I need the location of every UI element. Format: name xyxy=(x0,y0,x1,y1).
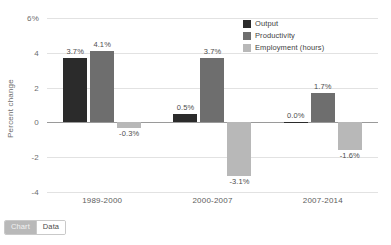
bar-rect xyxy=(284,122,308,123)
legend-item[interactable]: Productivity xyxy=(243,30,324,41)
bar-value-label: 0.0% xyxy=(287,111,305,120)
bar-value-label: 1.7% xyxy=(314,82,332,91)
legend-item[interactable]: Output xyxy=(243,18,324,29)
bar[interactable]: -0.3% xyxy=(117,18,141,192)
bar-rect xyxy=(200,58,224,122)
legend-swatch-icon xyxy=(243,20,251,28)
bar[interactable]: 4.1% xyxy=(90,18,114,192)
x-axis-category-label: 1989-2000 xyxy=(82,196,122,205)
bar-value-label: 3.7% xyxy=(204,47,222,56)
x-axis-category-label: 2000-2007 xyxy=(192,196,232,205)
y-axis-tick-label: 0 xyxy=(34,118,39,127)
chart-legend: OutputProductivityEmployment (hours) xyxy=(243,18,324,54)
y-axis-tick-label: -4 xyxy=(31,188,39,197)
bar-rect xyxy=(90,51,114,122)
plot-area: 3.7%4.1%-0.3%0.5%3.7%-3.1%0.0%1.7%-1.6% xyxy=(47,18,378,192)
legend-label: Output xyxy=(255,19,278,28)
tab-data[interactable]: Data xyxy=(36,221,65,234)
legend-swatch-icon xyxy=(243,44,251,52)
bar-rect xyxy=(227,122,251,176)
y-axis-ticks: 6%420-2-4 xyxy=(0,18,45,192)
legend-label: Employment (hours) xyxy=(255,43,324,52)
bar-rect xyxy=(173,114,197,123)
bar[interactable]: 3.7% xyxy=(63,18,87,192)
x-axis-labels: 1989-20002000-20072007-2014 xyxy=(47,196,378,212)
y-axis-tick-label: 6% xyxy=(27,14,39,23)
bar[interactable]: 3.7% xyxy=(200,18,224,192)
tab-chart[interactable]: Chart xyxy=(5,221,36,234)
bar[interactable]: -1.6% xyxy=(338,18,362,192)
bar-group: 3.7%4.1%-0.3% xyxy=(47,18,157,192)
bar-rect xyxy=(311,93,335,123)
bar-value-label: -3.1% xyxy=(229,177,249,186)
bar-value-label: 0.5% xyxy=(177,103,195,112)
gridline xyxy=(47,192,378,193)
bar-rect xyxy=(117,122,141,127)
y-axis-tick-label: 4 xyxy=(34,48,39,57)
bar[interactable]: 0.5% xyxy=(173,18,197,192)
x-axis-category-label: 2007-2014 xyxy=(303,196,343,205)
y-axis-tick-label: -2 xyxy=(31,153,39,162)
bar-value-label: 3.7% xyxy=(66,47,84,56)
view-toggle-group[interactable]: Chart Data xyxy=(4,220,66,235)
bar-rect xyxy=(63,58,87,122)
bar-value-label: -0.3% xyxy=(119,129,139,138)
y-axis-tick-label: 2 xyxy=(34,83,39,92)
chart-container: Percent change 6%420-2-4 3.7%4.1%-0.3%0.… xyxy=(0,0,391,245)
legend-label: Productivity xyxy=(255,31,295,40)
legend-item[interactable]: Employment (hours) xyxy=(243,42,324,53)
legend-swatch-icon xyxy=(243,32,251,40)
bar-rect xyxy=(338,122,362,150)
bar-value-label: -1.6% xyxy=(340,151,360,160)
bar-value-label: 4.1% xyxy=(93,40,111,49)
